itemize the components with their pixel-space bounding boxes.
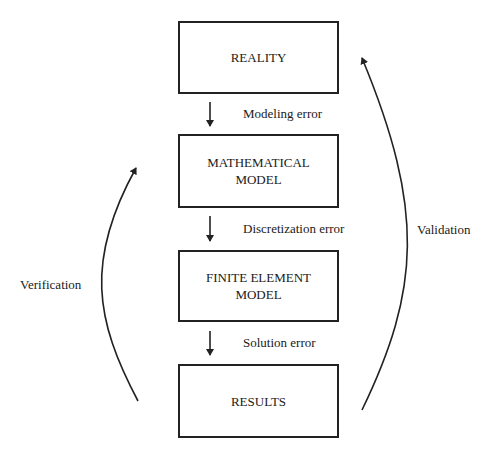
box-finite-element-model: FINITE ELEMENT MODEL <box>178 250 339 322</box>
box-finite-element-model-line-2: MODEL <box>206 286 311 303</box>
label-verification: Verification <box>20 277 81 293</box>
box-results-line-1: RESULTS <box>231 393 286 410</box>
label-modeling-error: Modeling error <box>243 106 322 122</box>
box-finite-element-model-line-1: FINITE ELEMENT <box>206 269 311 286</box>
box-results: RESULTS <box>178 364 339 438</box>
box-mathematical-model-line-1: MATHEMATICAL <box>207 154 310 171</box>
box-mathematical-model: MATHEMATICAL MODEL <box>178 134 339 208</box>
box-reality-line-1: REALITY <box>231 49 287 66</box>
box-reality: REALITY <box>178 21 339 94</box>
box-mathematical-model-line-2: MODEL <box>207 171 310 188</box>
label-discretization-error: Discretization error <box>243 221 344 237</box>
verification-arrow <box>102 168 138 401</box>
label-solution-error: Solution error <box>243 335 316 351</box>
label-validation: Validation <box>417 222 470 238</box>
validation-arrow <box>362 58 407 410</box>
